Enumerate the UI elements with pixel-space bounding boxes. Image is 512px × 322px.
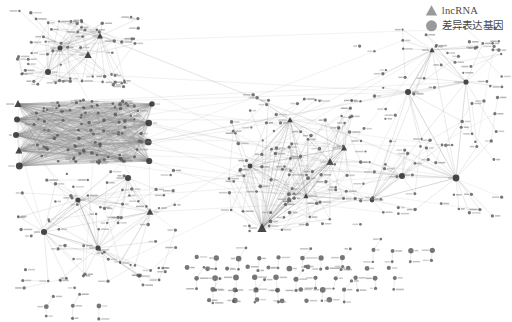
network-node[interactable] (149, 269, 152, 272)
network-node[interactable] (292, 197, 296, 201)
network-node[interactable] (495, 130, 498, 133)
network-node[interactable] (345, 174, 348, 177)
network-node[interactable] (228, 191, 231, 194)
network-node[interactable] (321, 222, 324, 225)
network-node[interactable] (313, 276, 317, 280)
network-node[interactable] (136, 148, 139, 151)
network-node[interactable] (119, 107, 123, 111)
network-node[interactable] (379, 238, 382, 241)
network-node[interactable] (51, 49, 54, 52)
network-node[interactable] (158, 279, 161, 282)
network-node[interactable] (24, 268, 27, 271)
network-node[interactable] (21, 191, 24, 194)
network-node[interactable] (27, 58, 30, 61)
network-node[interactable] (239, 168, 243, 172)
network-node[interactable] (55, 107, 57, 109)
network-node[interactable] (408, 248, 413, 253)
network-node[interactable] (394, 114, 397, 117)
network-node[interactable] (296, 102, 299, 105)
network-node[interactable] (287, 192, 291, 196)
network-node[interactable] (36, 143, 39, 146)
network-node[interactable] (373, 276, 378, 281)
network-node[interactable] (470, 102, 473, 105)
network-hub-node[interactable] (399, 173, 405, 179)
network-node[interactable] (268, 225, 271, 228)
network-node[interactable] (43, 107, 45, 109)
network-node[interactable] (76, 203, 79, 206)
network-node[interactable] (382, 87, 384, 89)
network-hub-node[interactable] (405, 89, 411, 95)
network-node[interactable] (76, 31, 79, 34)
network-node[interactable] (381, 72, 384, 75)
network-node[interactable] (130, 115, 133, 118)
network-node[interactable] (457, 55, 460, 58)
network-node[interactable] (96, 154, 98, 156)
network-node[interactable] (460, 126, 463, 129)
network-node[interactable] (359, 223, 362, 226)
network-node[interactable] (273, 130, 275, 132)
network-node[interactable] (491, 214, 494, 217)
network-hub-node[interactable] (14, 117, 20, 123)
network-node[interactable] (471, 132, 474, 135)
network-node[interactable] (486, 80, 489, 83)
network-node[interactable] (384, 108, 387, 111)
network-node[interactable] (83, 28, 86, 31)
network-node[interactable] (269, 220, 273, 224)
network-node[interactable] (265, 103, 268, 106)
network-node[interactable] (96, 28, 99, 31)
network-node[interactable] (236, 256, 242, 262)
network-node[interactable] (78, 293, 81, 296)
network-node[interactable] (90, 151, 94, 155)
network-node[interactable] (87, 194, 90, 197)
network-node[interactable] (299, 130, 302, 133)
network-node[interactable] (112, 39, 116, 43)
network-node[interactable] (373, 170, 376, 173)
network-node[interactable] (121, 189, 124, 192)
network-node[interactable] (329, 218, 332, 221)
network-node[interactable] (81, 35, 84, 38)
network-node[interactable] (391, 260, 394, 263)
network-node[interactable] (174, 228, 177, 231)
network-node[interactable] (234, 132, 237, 135)
network-node[interactable] (373, 50, 375, 52)
network-node[interactable] (288, 211, 292, 215)
network-node[interactable] (137, 110, 140, 113)
network-node[interactable] (40, 155, 43, 158)
network-node[interactable] (263, 278, 266, 281)
network-node[interactable] (323, 118, 326, 121)
network-node[interactable] (309, 247, 312, 250)
network-node[interactable] (359, 199, 362, 202)
network-node[interactable] (435, 45, 437, 47)
network-node[interactable] (97, 228, 99, 230)
network-node[interactable] (63, 244, 67, 248)
network-node[interactable] (403, 149, 406, 152)
network-node[interactable] (371, 196, 374, 199)
network-node[interactable] (302, 269, 304, 271)
network-node[interactable] (453, 61, 456, 64)
network-node[interactable] (37, 118, 39, 120)
network-node[interactable] (349, 247, 352, 250)
network-node[interactable] (107, 156, 110, 159)
network-node[interactable] (284, 203, 287, 206)
network-node[interactable] (195, 255, 199, 259)
network-node[interactable] (73, 144, 75, 146)
network-node[interactable] (162, 194, 165, 197)
network-node[interactable] (430, 248, 435, 253)
network-node[interactable] (262, 139, 264, 141)
network-node[interactable] (54, 200, 56, 202)
network-node[interactable] (225, 267, 229, 271)
network-node[interactable] (56, 134, 59, 137)
network-node[interactable] (19, 228, 22, 231)
network-node[interactable] (133, 155, 136, 158)
network-node[interactable] (319, 268, 322, 271)
network-node[interactable] (343, 122, 346, 125)
network-node[interactable] (288, 173, 291, 176)
network-node[interactable] (97, 111, 100, 114)
network-node[interactable] (53, 136, 57, 140)
network-node[interactable] (321, 299, 324, 302)
network-node[interactable] (356, 289, 359, 292)
network-node[interactable] (303, 97, 306, 100)
network-node[interactable] (35, 111, 38, 114)
network-node[interactable] (279, 121, 282, 124)
network-node[interactable] (164, 270, 167, 273)
